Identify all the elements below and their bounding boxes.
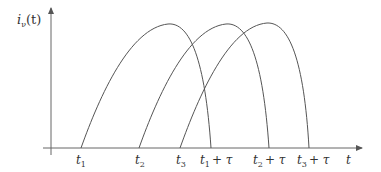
- label-t1-plus-tau: t1+ τ: [200, 153, 233, 169]
- label-t2-plus-tau: t2+ τ: [253, 153, 286, 169]
- x-axis-label: t: [346, 153, 351, 167]
- label-t2: t2: [135, 153, 145, 169]
- label-t1: t1: [76, 153, 86, 169]
- label-t3-plus-tau: t3+ τ: [297, 153, 330, 169]
- pulse-curve-3: [180, 23, 309, 148]
- y-axis-label: iν(t): [17, 12, 41, 29]
- pulse-diagram: iν(t) t1 t2 t3 t1+ τ t2+ τ t3+ τ t: [0, 0, 381, 172]
- label-t3: t3: [176, 153, 186, 169]
